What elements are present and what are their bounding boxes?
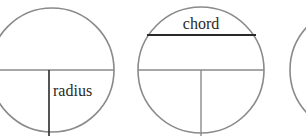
circle-chord: chord — [138, 7, 264, 136]
circle-parts-diagram: radius chord — [0, 0, 306, 136]
chord-label: chord — [183, 15, 219, 32]
circle-radius: radius — [0, 8, 114, 136]
radius-label: radius — [53, 82, 92, 99]
circle-outline — [290, 7, 306, 133]
circle-partial — [290, 7, 306, 133]
